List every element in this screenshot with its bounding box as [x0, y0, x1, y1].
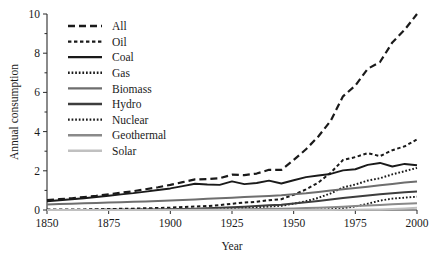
series-lines	[47, 14, 417, 210]
legend-label-nuclear: Nuclear	[112, 114, 149, 126]
legend-label-all: All	[112, 20, 127, 32]
legend-label-hydro: Hydro	[112, 98, 142, 111]
x-axis-title: Year	[221, 240, 242, 252]
legend-label-oil: Oil	[112, 36, 127, 48]
x-tick-label: 1850	[36, 217, 59, 229]
legend-label-solar: Solar	[112, 145, 136, 157]
legend-label-gas: Gas	[112, 67, 130, 79]
y-tick-label: 0	[34, 204, 40, 216]
y-tick-label: 6	[34, 86, 40, 98]
chart-figure: 02468101850187519001925195019752000 AllO…	[0, 0, 431, 265]
legend-label-biomass: Biomass	[112, 83, 152, 95]
line-chart: 02468101850187519001925195019752000 AllO…	[0, 0, 431, 265]
y-axis-title: Annual consumption	[8, 64, 21, 160]
x-tick-label: 2000	[406, 217, 429, 229]
y-tick-label: 4	[34, 126, 40, 138]
y-tick-label: 8	[34, 47, 40, 59]
x-tick-label: 1950	[282, 217, 305, 229]
x-tick-label: 1975	[344, 217, 367, 229]
y-tick-label: 2	[34, 165, 40, 177]
x-tick-label: 1900	[159, 217, 182, 229]
chart-legend: AllOilCoalGasBiomassHydroNuclearGeotherm…	[68, 20, 166, 157]
legend-label-coal: Coal	[112, 51, 134, 63]
x-tick-label: 1925	[221, 217, 244, 229]
legend-label-geothermal: Geothermal	[112, 129, 166, 141]
x-tick-label: 1875	[97, 217, 120, 229]
series-line-all	[47, 14, 417, 200]
y-tick-label: 10	[29, 8, 41, 20]
series-line-biomass	[47, 181, 417, 204]
